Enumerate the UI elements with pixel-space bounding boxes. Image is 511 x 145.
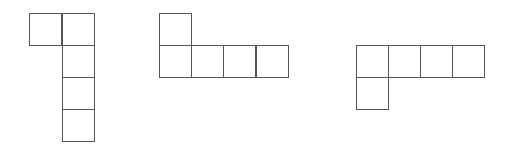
square-cell (62, 45, 95, 78)
square-cell (159, 13, 192, 46)
square-cell (191, 45, 224, 78)
square-cell (223, 45, 256, 78)
square-cell (256, 45, 289, 78)
square-cell (29, 13, 62, 46)
square-cell (62, 109, 95, 142)
square-cell (62, 77, 95, 110)
polyomino-figure (0, 0, 511, 145)
square-cell (356, 77, 389, 110)
square-cell (452, 45, 485, 78)
square-cell (62, 13, 95, 46)
square-cell (159, 45, 192, 78)
square-cell (420, 45, 453, 78)
square-cell (388, 45, 421, 78)
square-cell (356, 45, 389, 78)
